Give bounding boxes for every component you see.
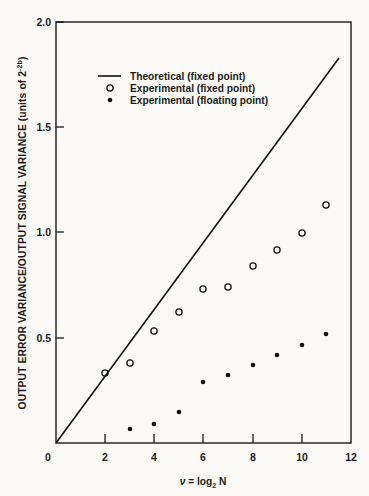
data-point-filled <box>275 353 280 358</box>
ytick-label-2-0: 2.0 <box>36 16 51 28</box>
xtick-label-12: 12 <box>345 451 357 463</box>
ytick-label-1-5: 1.5 <box>36 121 51 133</box>
y-axis-main-text: OUTPUT ERROR VARIANCE/OUTPUT SIGNAL VARI… <box>17 71 28 410</box>
legend: Theoretical (fixed point) Experimental (… <box>98 71 268 106</box>
y-axis-exponent: -2b <box>16 60 23 71</box>
data-point-filled <box>128 427 133 432</box>
data-point-filled <box>251 363 256 368</box>
data-point-open <box>176 309 182 315</box>
x-axis-n: N <box>216 476 226 487</box>
x-axis-title: ν = log2 N <box>180 476 227 489</box>
data-point-filled <box>201 380 206 385</box>
series-experimental-floating-points <box>128 332 329 432</box>
y-axis-title: OUTPUT ERROR VARIANCE/OUTPUT SIGNAL VARI… <box>16 57 28 410</box>
filled-circle-marker-icon <box>108 98 113 103</box>
xtick-label-6: 6 <box>200 451 206 463</box>
svg-text:ν = log2 N: ν = log2 N <box>180 476 227 489</box>
data-point-open <box>250 263 256 269</box>
data-point-filled <box>226 373 231 378</box>
x-axis-eq: = log <box>185 476 212 487</box>
data-point-open <box>225 284 231 290</box>
svg-text:OUTPUT ERROR VARIANCE/OUTPUT S: OUTPUT ERROR VARIANCE/OUTPUT SIGNAL VARI… <box>16 57 28 410</box>
ytick-label-0-5: 0.5 <box>36 332 51 344</box>
data-point-filled <box>177 410 182 415</box>
y-tick-marks <box>56 22 64 338</box>
y-axis-close-paren: ) <box>17 57 28 61</box>
legend-label-theoretical: Theoretical (fixed point) <box>130 71 245 82</box>
x-tick-marks <box>105 434 302 443</box>
series-experimental-fixed-points <box>102 202 329 376</box>
data-point-filled <box>300 343 305 348</box>
data-point-filled <box>152 422 157 427</box>
figure-container: 2.0 1.5 1.0 0.5 0 2 4 6 8 10 12 ν = log2… <box>0 0 369 496</box>
data-point-open <box>323 202 329 208</box>
legend-label-experimental-fixed: Experimental (fixed point) <box>130 83 255 94</box>
data-point-open <box>299 230 305 236</box>
data-point-open <box>200 286 206 292</box>
data-point-filled <box>324 332 329 337</box>
open-circle-marker-icon <box>107 85 113 91</box>
series-theoretical-line <box>56 58 339 443</box>
ytick-label-1-0: 1.0 <box>36 226 51 238</box>
xtick-label-10: 10 <box>296 451 308 463</box>
chart-svg: 2.0 1.5 1.0 0.5 0 2 4 6 8 10 12 ν = log2… <box>0 0 369 496</box>
xtick-label-8: 8 <box>250 451 256 463</box>
xtick-label-0: 0 <box>45 451 51 463</box>
xtick-label-4: 4 <box>151 451 157 463</box>
xtick-label-2: 2 <box>102 451 108 463</box>
data-point-open <box>151 328 157 334</box>
data-point-open <box>127 360 133 366</box>
data-point-open <box>274 247 280 253</box>
legend-label-experimental-floating: Experimental (floating point) <box>130 95 268 106</box>
